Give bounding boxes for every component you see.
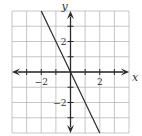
y-axis-label: y <box>61 0 69 13</box>
y-tick-label: 2 <box>61 37 67 47</box>
x-axis-label: x <box>132 71 139 84</box>
x-tick-label: 2 <box>97 77 103 87</box>
y-tick-label: −2 <box>53 98 66 108</box>
coordinate-plane: −222−2 x y <box>0 0 142 136</box>
x-tick-label: −2 <box>35 77 48 87</box>
